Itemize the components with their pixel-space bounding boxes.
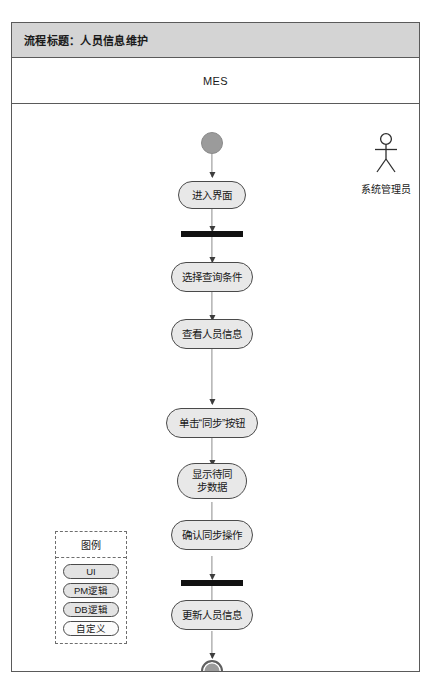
activity-node-7[interactable]: 更新人员信息 xyxy=(171,600,253,630)
legend-box: 图例 UI PM逻辑 DB逻辑 自定义 xyxy=(55,531,127,644)
legend-item-ui[interactable]: UI xyxy=(63,564,119,579)
connector-a2-to-a3 xyxy=(211,292,212,320)
diagram-title-bar: 流程标题：人员信息维护 xyxy=(12,23,419,58)
connector-a7-to-end xyxy=(211,631,212,658)
swimlane-header-mes: MES xyxy=(12,58,419,104)
legend-title: 图例 xyxy=(56,532,126,558)
activity-node-2[interactable]: 选择查询条件 xyxy=(171,262,253,292)
connector-a3-to-a4 xyxy=(211,348,212,404)
actor-label: 系统管理员 xyxy=(351,181,419,196)
page-title: 流程标题：人员信息维护 xyxy=(12,32,148,48)
legend-item-db-logic[interactable]: DB逻辑 xyxy=(63,602,119,617)
legend-item-custom[interactable]: 自定义 xyxy=(63,621,119,636)
fork-bar-1 xyxy=(181,231,243,237)
activity-node-5[interactable]: 显示待同 步数据 xyxy=(177,463,247,499)
end-node xyxy=(201,660,223,671)
activity-node-6[interactable]: 确认同步操作 xyxy=(171,520,253,550)
swimlane-label: MES xyxy=(203,75,228,87)
actor-stick-figure-icon xyxy=(369,132,403,174)
connector-a1-to-bar1 xyxy=(211,209,212,231)
connector-a4-to-a5 xyxy=(211,437,212,465)
activity-node-4[interactable]: 单击“同步”按钮 xyxy=(166,408,258,438)
activity-node-1[interactable]: 进入界面 xyxy=(178,181,246,209)
connector-a6-to-bar2 xyxy=(211,556,212,579)
activity-node-3[interactable]: 查看人员信息 xyxy=(171,319,253,349)
actor-system-administrator: 系统管理员 xyxy=(351,132,419,196)
fork-bar-2 xyxy=(181,580,243,586)
start-node xyxy=(201,132,223,154)
legend-item-pm-logic[interactable]: PM逻辑 xyxy=(63,583,119,598)
diagram-canvas: 系统管理员 进入界面 选择查询条件 查看人员信息 单击“同步”按钮 显示待同 步… xyxy=(12,104,419,671)
diagram-frame: 流程标题：人员信息维护 MES 系统管理员 进 xyxy=(11,22,420,672)
connector-bar1-to-a2 xyxy=(211,237,212,262)
legend-item-list: UI PM逻辑 DB逻辑 自定义 xyxy=(56,558,126,643)
connector-start-to-a1 xyxy=(211,154,212,177)
